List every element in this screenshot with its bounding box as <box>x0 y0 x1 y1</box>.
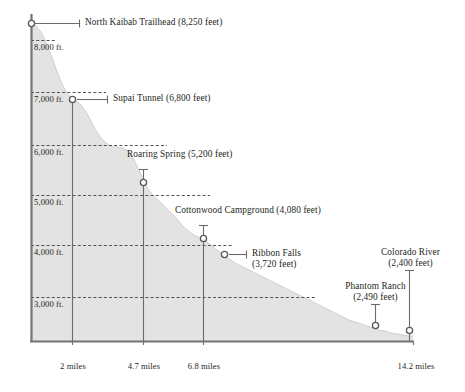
y-tick-label-5000: 5,000 ft. <box>34 197 64 209</box>
annotation-ribbon-falls: Ribbon Falls (3,720 feet) <box>252 248 301 270</box>
marker-roaring-spring[interactable] <box>140 179 146 185</box>
annotation-supai-tunnel: Supai Tunnel (6,800 feet) <box>113 93 211 105</box>
marker-north-kaibab-trailhead[interactable] <box>28 20 34 26</box>
annotation-colorado-river-line1: Colorado River <box>362 247 459 258</box>
elevation-profile-chart: 8,000 ft. 7,000 ft. 6,000 ft. 5,000 ft. … <box>0 0 465 392</box>
annotation-north-kaibab-trailhead: North Kaibab Trailhead (8,250 feet) <box>85 17 223 29</box>
y-tick-label-6000: 6,000 ft. <box>34 147 64 159</box>
x-tick-label-2-miles: 2 miles <box>48 361 98 373</box>
x-tick-label-4p7-miles: 4.7 miles <box>118 361 170 373</box>
annotation-ribbon-falls-line2: (3,720 feet) <box>252 259 301 270</box>
annotation-roaring-spring: Roaring Spring (5,200 feet) <box>127 149 232 161</box>
y-tick-label-7000: 7,000 ft. <box>34 94 64 106</box>
annotation-colorado-river-line2: (2,400 feet) <box>362 258 459 269</box>
y-tick-label-8000: 8,000 ft. <box>34 42 64 54</box>
profile-graphic <box>0 0 465 392</box>
annotation-ribbon-falls-line1: Ribbon Falls <box>252 248 301 259</box>
y-tick-label-3000: 3,000 ft. <box>34 299 64 311</box>
marker-cottonwood-campground[interactable] <box>200 235 206 241</box>
marker-phantom-ranch[interactable] <box>372 322 378 328</box>
annotation-phantom-ranch-line2: (2,490 feet) <box>327 292 424 303</box>
marker-colorado-river[interactable] <box>406 327 412 333</box>
annotation-phantom-ranch-line1: Phantom Ranch <box>327 281 424 292</box>
x-tick-label-6p8-miles: 6.8 miles <box>178 361 230 373</box>
annotation-phantom-ranch: Phantom Ranch (2,490 feet) <box>327 281 424 303</box>
y-tick-label-4000: 4,000 ft. <box>34 247 64 259</box>
x-tick-label-14p2-miles: 14.2 miles <box>388 361 444 373</box>
annotation-cottonwood-campground: Cottonwood Campground (4,080 feet) <box>175 205 321 217</box>
annotation-colorado-river: Colorado River (2,400 feet) <box>362 247 459 269</box>
marker-supai-tunnel[interactable] <box>69 96 75 102</box>
marker-ribbon-falls[interactable] <box>221 251 227 257</box>
